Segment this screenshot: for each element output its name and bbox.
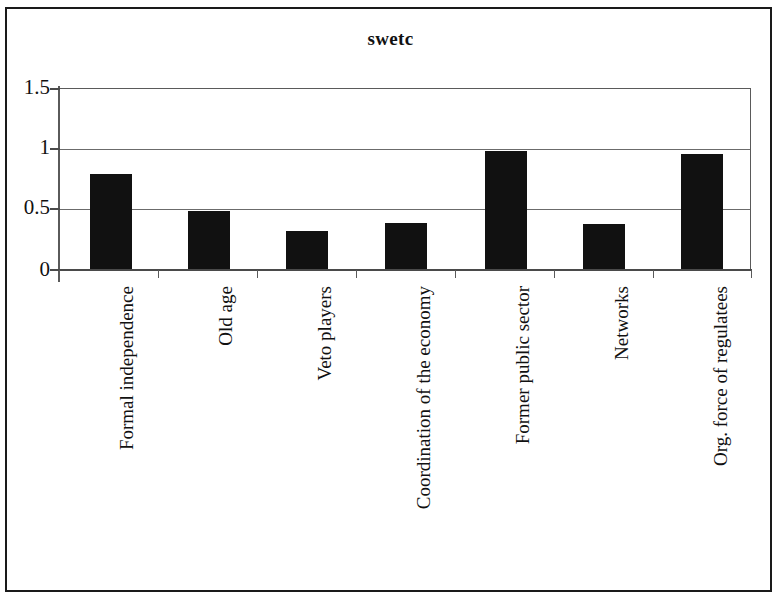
x-axis-label-org-force-of-regulatees: Org. force of regulatees — [710, 286, 732, 466]
x-axis-label-networks: Networks — [611, 286, 633, 360]
bar-former-public-sector[interactable] — [485, 151, 527, 270]
bar-org-force-of-regulatees[interactable] — [681, 154, 723, 270]
chart-title: swetc — [0, 28, 781, 50]
y-axis-label-1: 1 — [2, 137, 50, 158]
y-axis-label-1-5: 1.5 — [2, 77, 50, 98]
bar-formal-independence[interactable] — [90, 174, 132, 270]
x-tick-4 — [455, 270, 456, 278]
x-tick-3 — [356, 270, 357, 278]
y-axis-spine — [58, 86, 60, 282]
y-axis-label-0: 0 — [2, 259, 50, 280]
y-axis-label-0-5: 0.5 — [2, 197, 50, 218]
bar-networks[interactable] — [583, 224, 625, 270]
x-axis-label-coordination-of-the-economy: Coordination of the economy — [413, 286, 435, 509]
x-tick-7 — [751, 270, 752, 278]
bar-veto-players[interactable] — [286, 231, 328, 270]
y-tick-0-5 — [50, 208, 60, 210]
x-axis-label-old-age: Old age — [215, 286, 237, 346]
x-axis-label-veto-players: Veto players — [314, 286, 336, 380]
x-axis-baseline — [58, 269, 752, 271]
bar-old-age[interactable] — [188, 211, 230, 270]
x-tick-6 — [653, 270, 654, 278]
x-tick-1 — [158, 270, 159, 278]
y-tick-1-5 — [50, 88, 60, 90]
x-axis-label-former-public-sector: Former public sector — [512, 286, 534, 444]
x-axis-label-formal-independence: Formal independence — [116, 286, 138, 450]
x-tick-0 — [59, 270, 60, 278]
x-tick-5 — [554, 270, 555, 278]
chart-figure: swetc 1.5 1 0.5 0 Formal indep — [0, 0, 781, 603]
bar-coordination-of-the-economy[interactable] — [385, 223, 427, 270]
bars-layer — [59, 88, 751, 270]
y-tick-1 — [50, 148, 60, 150]
x-tick-2 — [257, 270, 258, 278]
